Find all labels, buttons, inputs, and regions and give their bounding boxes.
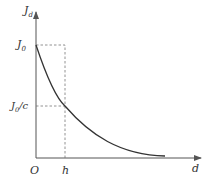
decay-curve [36,45,165,156]
j0c-tick-label: J0/c [9,100,29,114]
decay-diagram: Jd J0 J0/c O h d [0,0,212,177]
x-axis-label: d [192,162,199,175]
j0-tick-label: J0 [15,38,26,53]
origin-label: O [30,164,39,177]
y-axis-label: Jd [22,4,33,19]
h-tick-label: h [62,164,69,177]
